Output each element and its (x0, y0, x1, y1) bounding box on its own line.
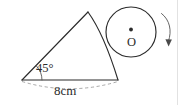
rolling-circle (106, 7, 156, 57)
circle-center-label: O (127, 36, 136, 49)
triangle-right-arc (88, 12, 118, 80)
circle-center-dot (129, 28, 133, 32)
triangle-left-side-line (22, 12, 88, 80)
geometry-figure: 45° 8cm O (0, 0, 181, 105)
base-length-label: 8cm (54, 84, 76, 97)
figure-canvas (0, 0, 181, 105)
rotation-arrow-head (165, 39, 172, 46)
rotation-arrow-arc (162, 14, 171, 42)
angle-label: 45° (36, 62, 54, 75)
